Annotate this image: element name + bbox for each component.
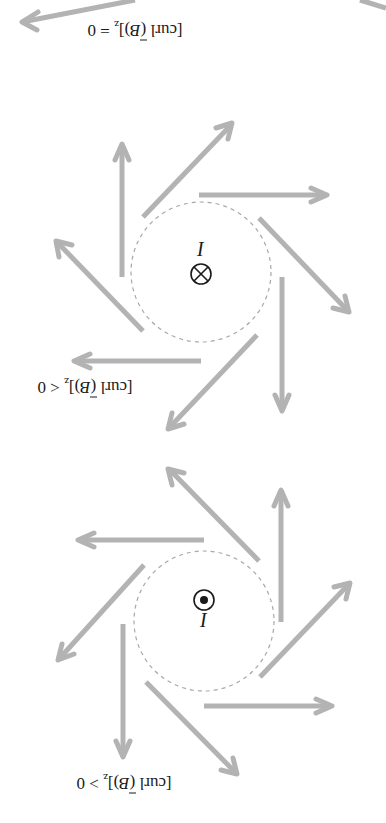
label-prefix: [curl ( [140,21,182,40]
vector-b: B [80,378,91,397]
field-arrow [146,682,237,774]
vector-b: B [130,21,141,40]
field-arrow [168,335,257,429]
curl-diagram: [curl (B)]z = 0 [0,0,386,823]
current-marker: I [194,590,214,631]
svg-text:[curl (B)]z < 0: [curl (B)]z < 0 [37,376,132,397]
field-arrow [199,188,327,202]
field-arrow [56,241,143,331]
curl-label: [curl (B)]z = 0 [87,19,182,40]
field-arrow [78,533,204,547]
field-arrow [58,565,144,660]
field-arrow [274,490,288,622]
curl-label: [curl (B)]z < 0 [37,376,132,397]
field-arrow [259,218,349,312]
field-arrow [360,0,386,8]
diagram-canvas: [curl (B)]z = 0 [0,0,386,823]
svg-text:[curl (B)]z = 0: [curl (B)]z = 0 [87,19,182,40]
svg-text:[curl (B)]z > 0: [curl (B)]z > 0 [76,772,171,793]
curl-label: [curl (B)]z > 0 [76,772,171,793]
current-marker: I [191,238,211,284]
amperian-loop [131,202,271,342]
vector-b: B [119,774,130,793]
field-arrow [168,469,259,561]
current-label: I [196,238,205,260]
field-arrow [275,277,289,411]
field-arrow [116,624,130,757]
field-arrow [74,354,201,368]
field-arrow [115,144,129,277]
current-label: I [199,609,208,631]
field-arrow [204,699,332,713]
panel-curl-negative: I [curl (B)]z < 0 [37,123,349,429]
panel-curl-positive: I [curl (B)]z > 0 [58,469,350,793]
panel-curl-zero: [curl (B)]z = 0 [22,0,386,40]
